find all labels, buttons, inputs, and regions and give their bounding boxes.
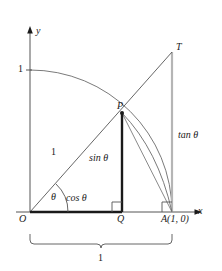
point-label-origin: O bbox=[19, 214, 26, 224]
brace-length-label: 1 bbox=[98, 253, 103, 263]
x-axis-label: x bbox=[198, 206, 202, 216]
right-angle-marker-q bbox=[112, 202, 122, 212]
unit-circle-diagram: y x 1 O P Q A(1, 0) T 1 sin θ cos θ tan … bbox=[0, 0, 222, 271]
y-axis-label: y bbox=[36, 26, 40, 36]
y-axis bbox=[27, 26, 33, 212]
point-label-p: P bbox=[117, 101, 123, 111]
point-label-q: Q bbox=[117, 214, 124, 224]
segment-label-cosine: cos θ bbox=[66, 193, 87, 203]
segment-label-tangent: tan θ bbox=[178, 130, 198, 140]
segment-label-radius: 1 bbox=[51, 147, 56, 157]
segment-PA bbox=[122, 113, 172, 212]
ray-OT bbox=[30, 52, 172, 212]
point-p-dot bbox=[120, 111, 124, 115]
y-axis-unit-label: 1 bbox=[18, 64, 23, 74]
point-label-t: T bbox=[176, 42, 182, 52]
point-label-a: A(1, 0) bbox=[161, 214, 189, 224]
segment-label-sine: sin θ bbox=[89, 153, 108, 163]
angle-label-theta: θ bbox=[51, 192, 56, 202]
length-brace bbox=[30, 234, 172, 248]
